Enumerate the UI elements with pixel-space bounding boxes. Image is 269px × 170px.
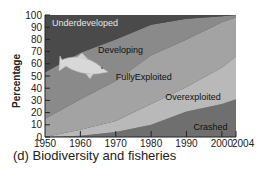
label-overexploited: Overexploited [165,92,221,102]
y-tick-label: 40 [31,83,43,94]
y-tick-label: 60 [31,58,43,69]
y-tick-label: 70 [31,46,43,57]
label-crashed: Crashed [194,122,228,132]
y-tick-label: 10 [31,119,43,130]
y-tick-label: 100 [25,10,42,21]
x-tick-label: 1990 [175,138,198,149]
x-tick-label: 2004 [232,138,255,149]
y-axis-title: Percentage [11,54,22,108]
y-tick-label: 80 [31,34,43,45]
y-tick-label: 50 [31,71,43,82]
y-tick-label: 20 [31,107,43,118]
y-tick-label: 90 [31,22,43,33]
y-tick-label: 30 [31,95,43,106]
label-developing: Developing [98,45,143,55]
label-underdeveloped: Underdeveloped [52,18,118,28]
figure-caption: (d) Biodiversity and fisheries [13,148,176,163]
label-fullyexploited: FullyExploited [116,72,172,82]
stacked-area-chart: UnderdevelopedDevelopingFullyExploitedOv… [0,0,269,170]
x-tick-label: 2000 [211,138,234,149]
